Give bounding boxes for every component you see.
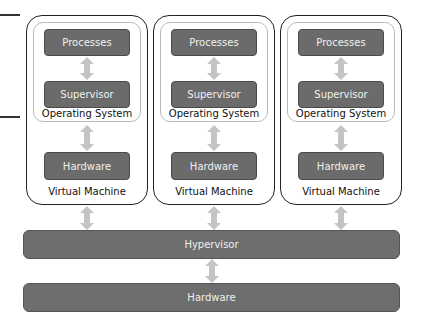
vm-hardware-label: Hardware — [190, 161, 238, 172]
vm-hardware-label: Hardware — [317, 161, 365, 172]
supervisor-label: Supervisor — [187, 89, 240, 100]
bidirectional-arrow-icon — [334, 125, 348, 151]
processes-label: Processes — [62, 37, 111, 48]
bidirectional-arrow-icon — [80, 57, 94, 80]
processes-block: Processes — [171, 29, 257, 56]
vm-hardware-label: Hardware — [63, 161, 111, 172]
bidirectional-arrow-icon — [334, 57, 348, 80]
supervisor-label: Supervisor — [60, 89, 113, 100]
bidirectional-arrow-icon — [80, 206, 94, 230]
vm-hardware-block: Hardware — [298, 152, 384, 180]
operating-system-label: Operating System — [153, 108, 275, 119]
hypervisor-label: Hypervisor — [184, 239, 238, 250]
vm-hardware-block: Hardware — [171, 152, 257, 180]
bidirectional-arrow-icon — [80, 125, 94, 151]
virtual-machine-label: Virtual Machine — [26, 186, 148, 197]
processes-block: Processes — [44, 29, 130, 56]
edge-line-top — [0, 14, 20, 16]
supervisor-block: Supervisor — [44, 81, 130, 108]
processes-label: Processes — [189, 37, 238, 48]
virtual-machine-label: Virtual Machine — [280, 186, 402, 197]
physical-hardware-bar: Hardware — [23, 283, 400, 312]
operating-system-label: Operating System — [280, 108, 402, 119]
virtual-machine-label: Virtual Machine — [153, 186, 275, 197]
processes-block: Processes — [298, 29, 384, 56]
processes-label: Processes — [316, 37, 365, 48]
supervisor-block: Supervisor — [298, 81, 384, 108]
supervisor-block: Supervisor — [171, 81, 257, 108]
hypervisor-bar: Hypervisor — [23, 230, 400, 259]
bidirectional-arrow-icon — [207, 57, 221, 80]
physical-hardware-label: Hardware — [187, 292, 235, 303]
supervisor-label: Supervisor — [314, 89, 367, 100]
bidirectional-arrow-icon — [207, 125, 221, 151]
operating-system-label: Operating System — [26, 108, 148, 119]
edge-line-bottom — [0, 116, 20, 118]
bidirectional-arrow-icon — [207, 206, 221, 230]
vm-hardware-block: Hardware — [44, 152, 130, 180]
bidirectional-arrow-icon — [334, 206, 348, 230]
bidirectional-arrow-icon — [205, 259, 219, 283]
